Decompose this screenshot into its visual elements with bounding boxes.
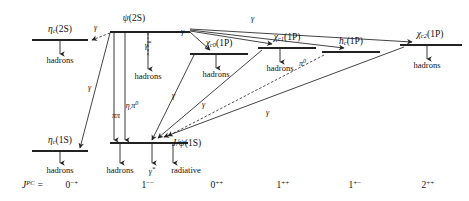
transition-label-hc-etac1s: π0 (299, 58, 306, 68)
jpc-value-chi-c1: 1++ (276, 180, 289, 190)
jpc-value-eta-c: 0−+ (65, 180, 78, 190)
charmonium-level-diagram: ηc(2S) ψ(2S) χc0(1P) χc1(1P) hc(1P) χc2(… (0, 0, 469, 201)
psi2s-to-etac2s-group (92, 33, 110, 40)
transition-label-chic2-jpsi: γ (266, 109, 269, 117)
level-label-eta-c-1s: ηc(1S) (48, 136, 72, 146)
decay-label-jpsi-radiative: radiative (171, 166, 201, 175)
level-label-chi-c0-1p: χc0(1P) (206, 39, 233, 49)
transition-label-chic0-jpsi: γ (172, 92, 175, 100)
decay-label-chic0-hadrons: hadrons (203, 70, 230, 79)
level-label-h-c-1p: hc(1P) (339, 37, 363, 47)
decay-label-jpsi-hadrons: hadrons (107, 166, 134, 175)
jpc-value-psi: 1−− (141, 180, 154, 190)
level-label-eta-c-2s: ηc(2S) (48, 25, 72, 35)
decay-label-chic2-hadrons: hadrons (414, 61, 441, 70)
level-label-jpsi-1s: J/ψ(1S) (172, 139, 201, 149)
transition-label-psi2s-etac1s: γ (88, 84, 91, 92)
decay-label-jpsi-gamma-star: γ* (149, 166, 156, 176)
transition-label-psi2s-jpsi-pipi: ππ (112, 112, 120, 120)
transition-label-psi2s-chic0: γ (181, 28, 184, 36)
transition-psi2s-etac2s (92, 33, 110, 40)
chicj-to-jpsi-transitions (152, 47, 404, 140)
transition-label-psi2s-gamma-star: γ* (145, 40, 152, 50)
decay-label-chic1-hadrons: hadrons (267, 64, 294, 73)
transition-chic2-jpsi (164, 47, 404, 137)
level-label-chi-c1-1p: χc1(1P) (274, 33, 301, 43)
transition-label-psi2s-etac2s: γ (94, 24, 97, 32)
level-label-chi-c2-1p: χc2(1P) (417, 30, 444, 40)
jpc-row-key: JPC = (22, 180, 43, 190)
jpc-value-h-c: 1+− (348, 180, 361, 190)
level-label-psi-2s: ψ(2S) (123, 14, 145, 24)
decay-label-etac2s-hadrons: hadrons (47, 56, 74, 65)
transition-label-psi2s-jpsi-eta-pi0: η,π0 (126, 100, 138, 110)
jpc-value-chi-c0: 0++ (210, 180, 223, 190)
decay-label-psi2s-hadrons: hadrons (135, 72, 162, 81)
psi2s-to-jpsi-transitions (114, 33, 125, 140)
transition-label-psi2s-chic1: γ (251, 15, 254, 23)
decay-label-etac1s-hadrons: hadrons (47, 166, 74, 175)
transition-psi2s-etac1s (80, 33, 110, 148)
jpc-value-chi-c2: 2++ (421, 180, 434, 190)
transition-label-chic1-jpsi: γ (202, 101, 205, 109)
